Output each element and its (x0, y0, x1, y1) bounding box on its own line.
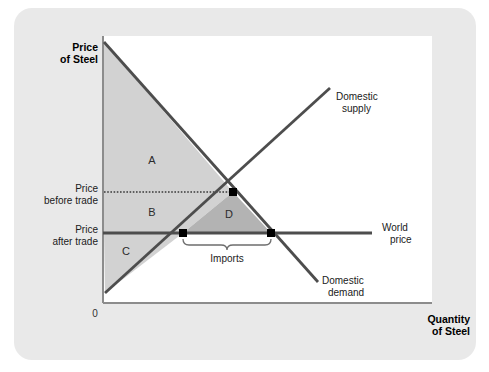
region-label-b: B (148, 206, 155, 218)
y-axis-title-line1: Price (72, 41, 98, 53)
x-axis-title-line1: Quantity (427, 313, 470, 325)
domestic-demand-label-line2: demand (328, 287, 364, 298)
domestic-supply-label-line1: Domestic (336, 91, 378, 102)
domestic-demanded-marker (267, 229, 275, 237)
price-before-trade-label-line2: before trade (44, 195, 98, 206)
domestic-supply-label-line2: supply (342, 103, 371, 114)
world-price-label-line1: World (382, 222, 408, 233)
region-label-d: D (225, 208, 233, 220)
trade-welfare-diagram: Price of Steel Quantity of Steel 0 Price… (0, 0, 489, 372)
region-label-c: C (122, 245, 130, 257)
region-label-a: A (148, 154, 156, 166)
y-axis-title-line2: of Steel (60, 53, 98, 65)
autarky-equilibrium-marker (229, 188, 237, 196)
price-before-trade-label-line1: Price (75, 183, 98, 194)
figure-root: Price of Steel Quantity of Steel 0 Price… (0, 0, 489, 372)
origin-label: 0 (92, 308, 98, 319)
price-after-trade-label-line1: Price (75, 224, 98, 235)
imports-bracket-label: Imports (210, 253, 243, 264)
domestic-demand-label-line1: Domestic (322, 275, 364, 286)
price-after-trade-label-line2: after trade (52, 236, 98, 247)
world-price-label-line2: price (390, 234, 412, 245)
x-axis-title-line2: of Steel (432, 325, 470, 337)
domestic-supplied-marker (179, 229, 187, 237)
